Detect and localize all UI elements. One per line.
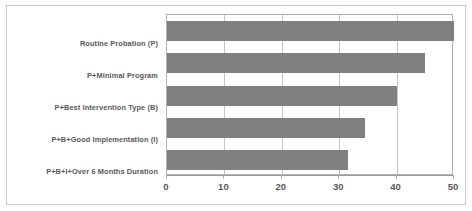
- category-label-3: P+B+Good Implementation (I): [8, 135, 158, 144]
- x-tick-mark-50: [453, 175, 454, 179]
- x-tick-mark-30: [338, 175, 339, 179]
- bar-0: [167, 21, 454, 41]
- category-label-0: Routine Probation (P): [8, 39, 158, 48]
- x-tick-label-50: 50: [448, 181, 459, 192]
- category-label-4: P+B+I+Over 6 Months Duration: [8, 167, 158, 176]
- category-label-2: P+Best Intervention Type (B): [8, 103, 158, 112]
- bar-4: [167, 150, 348, 170]
- x-axis-line: [166, 175, 453, 176]
- category-axis-labels: Routine Probation (P) P+Minimal Program …: [8, 14, 162, 175]
- x-tick-label-40: 40: [390, 181, 401, 192]
- chart-region: Routine Probation (P) P+Minimal Program …: [0, 0, 472, 211]
- bar-1: [167, 53, 425, 73]
- x-tick-mark-40: [396, 175, 397, 179]
- bar-chart-figure: Routine Probation (P) P+Minimal Program …: [0, 0, 472, 211]
- bar-2: [167, 86, 397, 106]
- x-tick-mark-20: [281, 175, 282, 179]
- x-tick-mark-10: [223, 175, 224, 179]
- x-tick-label-10: 10: [218, 181, 229, 192]
- x-tick-label-0: 0: [163, 181, 168, 192]
- bar-3: [167, 118, 365, 138]
- x-tick-label-20: 20: [276, 181, 287, 192]
- x-tick-mark-0: [166, 175, 167, 179]
- category-label-1: P+Minimal Program: [8, 71, 158, 80]
- x-tick-label-30: 30: [333, 181, 344, 192]
- plot-area: [166, 14, 453, 175]
